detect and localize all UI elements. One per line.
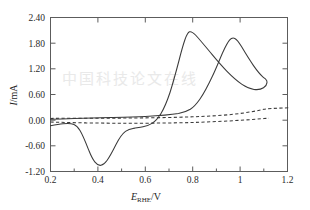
watermark-group: 中国科技论文在线	[62, 70, 198, 88]
y-tick-label: -1.20	[25, 167, 45, 177]
svg-text:I/mA: I/mA	[8, 84, 19, 107]
y-tick-label: 0.60	[28, 90, 45, 100]
data-curves	[51, 32, 290, 166]
solid-curve-cv-return	[51, 123, 135, 165]
y-axis-title: I/mA	[8, 84, 19, 107]
dashed-curve-upper	[51, 108, 290, 119]
x-tick-label: 1.2	[282, 175, 294, 185]
x-tick-labels: 0.2 0.4 0.6 0.8 1 1.2	[45, 175, 294, 185]
y-tick-labels: 2.40 1.80 1.20 0.60 0.00 -0.60 -1.20	[25, 13, 45, 177]
svg-text:ERHE/V: ERHE/V	[130, 191, 162, 204]
x-axis-title: ERHE/V	[130, 191, 162, 204]
x-axis-title-unit: /V	[151, 191, 162, 202]
x-tick-label: 1	[238, 175, 243, 185]
y-tick-label: 1.20	[28, 64, 45, 74]
dashed-curve-lower	[51, 118, 270, 123]
y-tick-label: 2.40	[28, 13, 45, 23]
x-tick-label: 0.8	[187, 175, 199, 185]
x-tick-label: 0.4	[92, 175, 104, 185]
x-axis-title-symbol: E	[130, 191, 137, 202]
watermark-text: 中国科技论文在线	[62, 70, 198, 88]
y-tick-label: -0.60	[25, 141, 45, 151]
cyclic-voltammogram-plot: 中国科技论文在线	[0, 0, 310, 210]
x-tick-label: 0.2	[45, 175, 57, 185]
y-axis-title-unit: /mA	[8, 84, 19, 103]
y-tick-label: 0.00	[28, 116, 45, 126]
x-tick-label: 0.6	[139, 175, 151, 185]
chart-figure: 中国科技论文在线	[0, 0, 310, 210]
y-tick-label: 1.80	[28, 39, 45, 49]
x-axis-title-subscript: RHE	[137, 196, 151, 204]
